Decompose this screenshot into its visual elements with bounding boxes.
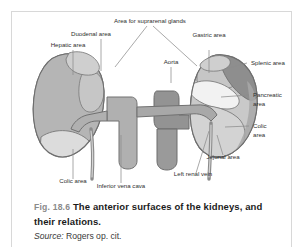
figure-container: Area for suprarenal glands Duodenal area… xyxy=(0,0,304,248)
left-duodenal-area xyxy=(79,71,104,112)
right-kidney-group xyxy=(187,51,259,157)
leader-suprarenal-left xyxy=(115,26,147,67)
caption-line: Fig. 18.6 The anterior surfaces of the k… xyxy=(34,200,284,228)
label-jejunal: Jejunal area xyxy=(206,153,240,160)
left-kidney-group xyxy=(32,52,106,169)
label-colic-left: Colic area xyxy=(59,177,87,184)
aorta-lower-segment xyxy=(157,129,177,170)
source-label: Source: xyxy=(34,231,64,241)
label-colic-right-line1: Colic xyxy=(253,122,267,129)
figure-number: Fig. 18.6 xyxy=(34,202,70,212)
figure-source-line: Source: Rogers op. cit. xyxy=(34,231,284,242)
label-suprarenal: Area for suprarenal glands xyxy=(114,17,186,24)
label-splenic: Splenic area xyxy=(251,59,285,66)
label-gastric: Gastric area xyxy=(192,31,226,38)
label-hepatic: Hepatic area xyxy=(51,41,86,48)
label-colic-right-line2: area xyxy=(253,131,266,138)
label-inferior-vena-cava: Inferior vena cava xyxy=(97,182,146,189)
label-pancreatic-line2: area xyxy=(253,100,266,107)
inferior-vena-cava-vessel xyxy=(107,97,137,169)
source-text: Rogers op. cit. xyxy=(66,231,121,241)
label-pancreatic-line1: Pancreatic xyxy=(253,91,282,98)
label-aorta: Aorta xyxy=(164,58,179,65)
label-duodenal: Duodenal area xyxy=(71,30,112,37)
label-left-renal-vein: Left renal vein xyxy=(174,170,212,177)
figure-caption-block: Fig. 18.6 The anterior surfaces of the k… xyxy=(34,200,284,242)
kidney-anatomy-illustration: Area for suprarenal glands Duodenal area… xyxy=(11,11,292,197)
